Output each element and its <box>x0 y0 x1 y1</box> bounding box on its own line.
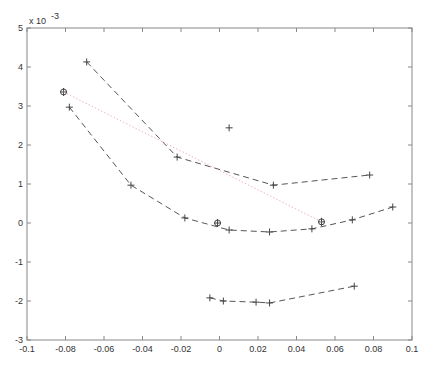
x-tick-label: 0.08 <box>365 344 383 354</box>
y-tick-label: 3 <box>18 101 23 111</box>
x-tick-label: 0.04 <box>288 344 306 354</box>
y-exponent-label: x 10 <box>29 16 46 26</box>
x-tick-label: 0.06 <box>326 344 344 354</box>
y-tick-label: 2 <box>18 140 23 150</box>
x-tick-label: -0.06 <box>94 344 115 354</box>
y-tick-label: 0 <box>18 218 23 228</box>
y-tick-label: -1 <box>15 257 23 267</box>
x-tick-label: 0.02 <box>249 344 267 354</box>
y-tick-label: 5 <box>18 23 23 33</box>
dotted-link-line <box>64 92 322 222</box>
x-tick-label: -0.02 <box>171 344 192 354</box>
y-tick-label: -3 <box>15 335 23 345</box>
y-tick-label: -2 <box>15 296 23 306</box>
y-exponent-power: -3 <box>51 11 59 21</box>
y-tick-label: 4 <box>18 62 23 72</box>
series-layer <box>60 58 396 306</box>
x-tick-label: 0.1 <box>406 344 419 354</box>
x-tick-label: 0 <box>217 344 222 354</box>
y-tick-label: 1 <box>18 179 23 189</box>
curve-lower-line <box>210 286 354 303</box>
x-tick-label: -0.08 <box>55 344 76 354</box>
plot-box <box>27 28 412 340</box>
axes: -0.1-0.08-0.06-0.04-0.0200.020.040.060.0… <box>15 11 418 354</box>
x-tick-label: -0.1 <box>19 344 35 354</box>
x-tick-label: -0.04 <box>132 344 153 354</box>
curve-upper-line <box>87 62 370 185</box>
curve-middle-line <box>69 107 392 232</box>
line-chart: -0.1-0.08-0.06-0.04-0.0200.020.040.060.0… <box>0 0 432 367</box>
